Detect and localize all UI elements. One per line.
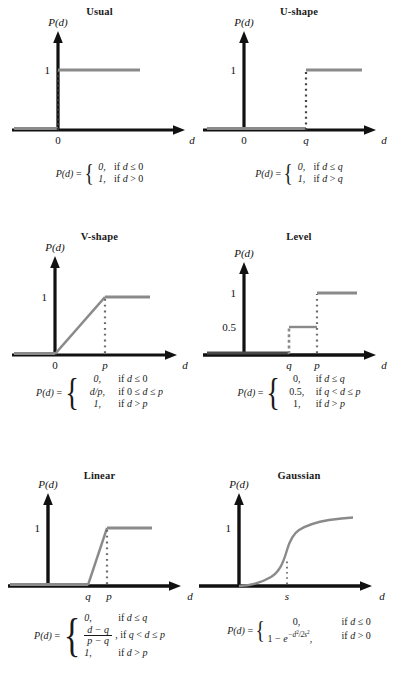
panel-linear: Linear 1 q p P(d) d P(d) = xyxy=(0,450,199,681)
yaxis-label: P(d) xyxy=(44,241,65,254)
xtick-label-p: p xyxy=(105,590,112,602)
xaxis-label: d xyxy=(381,134,387,146)
figure-grid: Usual 1 0 P(d) d xyxy=(0,0,399,681)
xtick-label-0: 0 xyxy=(52,359,58,371)
plot-usual: 1 0 P(d) d xyxy=(0,22,199,144)
yaxis-label: P(d) xyxy=(233,16,254,29)
formula-linear: P(d) ={ 0,if d ≤ q d − qp − q, if q < d … xyxy=(0,612,199,659)
ytick-label-1: 1 xyxy=(35,522,41,534)
ytick-label-1: 1 xyxy=(42,291,48,303)
xtick-label-q: q xyxy=(303,134,309,146)
panel-v-shape: V-shape 1 0 p P(d) d P(d) ={ xyxy=(0,225,199,450)
xtick-label-p: p xyxy=(101,359,108,371)
yaxis-label: P(d) xyxy=(37,478,58,491)
ytick-label-1: 1 xyxy=(226,522,232,534)
panel-title-linear: Linear xyxy=(0,470,199,481)
panel-usual: Usual 1 0 P(d) d xyxy=(0,0,199,225)
plot-v-shape: 1 0 p P(d) d xyxy=(0,247,199,369)
ytick-label-05: 0.5 xyxy=(222,321,236,333)
panel-level: Level 1 0.5 q p P(d) d xyxy=(199,225,399,450)
ytick-label-1: 1 xyxy=(231,287,237,299)
formula-u-shape: P(d) ={ 0,if d ≤ q 1,if d > q xyxy=(199,160,399,186)
formula-gaussian: P(d) ={ 0,if d ≤ 0 1 − e−d2/2s2,if d > 0 xyxy=(199,616,399,645)
panel-title-v-shape: V-shape xyxy=(0,231,199,242)
xaxis-label: d xyxy=(379,590,385,602)
xaxis-label: d xyxy=(187,590,193,602)
formula-usual: P(d) ={ 0,if d ≤ 0 1,if d > 0 xyxy=(0,160,199,186)
panel-title-u-shape: U-shape xyxy=(199,6,399,17)
plot-gaussian: 1 s P(d) d xyxy=(199,484,399,600)
xaxis-label: d xyxy=(189,134,195,146)
yaxis-label: P(d) xyxy=(228,478,249,491)
xaxis-label: d xyxy=(381,359,387,371)
ytick-label-1: 1 xyxy=(231,64,237,76)
panel-title-usual: Usual xyxy=(0,6,199,17)
formula-v-shape: P(d) ={ 0,if d ≤ 0 d/p,if 0 ≤ d ≤ p 1,if… xyxy=(0,373,199,411)
panel-title-level: Level xyxy=(199,231,399,242)
plot-linear: 1 q p P(d) d xyxy=(0,484,199,600)
ytick-label-1: 1 xyxy=(45,64,51,76)
xtick-label-p: p xyxy=(313,359,320,371)
formula-level: P(d) ={ 0,if d ≤ q 0.5,if q < d ≤ p 1,if… xyxy=(199,373,399,411)
xtick-label-s: s xyxy=(285,590,289,602)
plot-level: 1 0.5 q p P(d) d xyxy=(199,247,399,369)
plot-u-shape: 1 0 q P(d) d xyxy=(199,22,399,144)
panel-gaussian: Gaussian 1 s P(d) d P(d) ={ 0,if d ≤ 0 1 xyxy=(199,450,399,681)
yaxis-label: P(d) xyxy=(47,16,68,29)
xtick-label-q: q xyxy=(85,590,91,602)
xtick-label-0: 0 xyxy=(241,134,247,146)
xtick-label-0: 0 xyxy=(55,134,61,146)
xaxis-label: d xyxy=(182,359,188,371)
xtick-label-q: q xyxy=(286,359,292,371)
panel-u-shape: U-shape 1 0 q P(d) d P(d) ={ 0,if d ≤ q xyxy=(199,0,399,225)
yaxis-label: P(d) xyxy=(233,247,254,260)
